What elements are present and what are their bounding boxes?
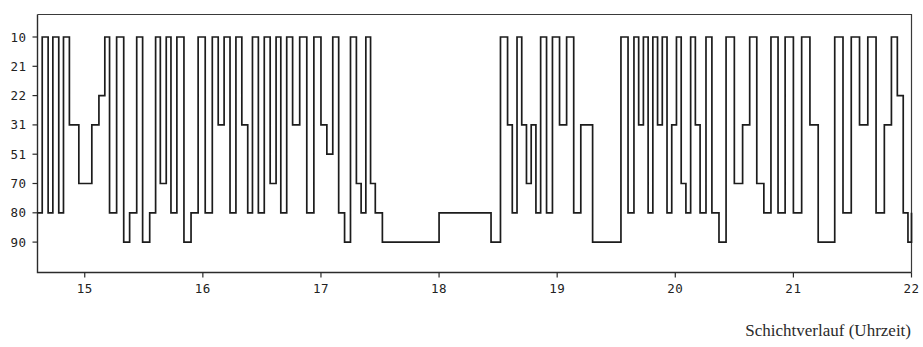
y-tick-label-70: 70 bbox=[10, 176, 26, 191]
x-tick-label-19: 19 bbox=[549, 281, 565, 296]
y-tick-label-31: 31 bbox=[10, 117, 26, 132]
trace-path bbox=[38, 37, 912, 242]
y-axis-tick-labels: 1021223151708090 bbox=[10, 30, 26, 250]
x-tick-label-18: 18 bbox=[431, 281, 447, 296]
x-tick-label-21: 21 bbox=[785, 281, 801, 296]
y-tick-label-51: 51 bbox=[10, 147, 26, 162]
y-tick-label-21: 21 bbox=[10, 59, 26, 74]
y-tick-label-90: 90 bbox=[10, 235, 26, 250]
x-tick-label-16: 16 bbox=[195, 281, 211, 296]
chart-caption: Schichtverlauf (Uhrzeit) bbox=[745, 321, 911, 340]
x-axis-ticks bbox=[85, 273, 912, 278]
x-tick-label-20: 20 bbox=[667, 281, 683, 296]
y-tick-label-22: 22 bbox=[10, 88, 26, 103]
x-axis-tick-labels: 1516171819202122 bbox=[77, 281, 920, 296]
plot-frame bbox=[38, 15, 912, 273]
state-trace-chart: 1021223151708090 1516171819202122 Schich… bbox=[0, 0, 923, 347]
x-tick-label-22: 22 bbox=[903, 281, 919, 296]
y-tick-label-80: 80 bbox=[10, 205, 26, 220]
x-tick-label-17: 17 bbox=[313, 281, 329, 296]
chart-figure: 1021223151708090 1516171819202122 Schich… bbox=[0, 0, 923, 347]
y-axis-ticks bbox=[33, 37, 38, 242]
x-tick-label-15: 15 bbox=[77, 281, 93, 296]
y-tick-label-10: 10 bbox=[10, 30, 26, 45]
step-trace-line bbox=[38, 37, 912, 242]
